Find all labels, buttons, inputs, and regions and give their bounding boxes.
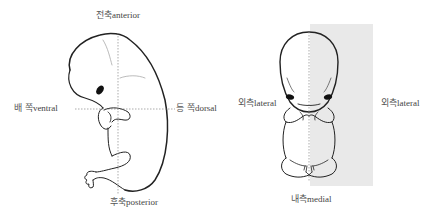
label-dorsal-en: dorsal (195, 103, 217, 113)
label-lateral-right-en: lateral (397, 98, 419, 108)
label-medial-ko: 내측 (291, 194, 307, 204)
embryo-illustrations (0, 0, 435, 220)
label-anterior-en: anterior (112, 10, 140, 20)
label-lateral-left-ko: 외측 (238, 98, 254, 108)
label-posterior-ko: 후축 (110, 197, 126, 207)
label-anterior: 전축anterior (96, 10, 140, 21)
label-ventral: 배 쪽ventral (14, 103, 58, 114)
label-lateral-right-ko: 외측 (381, 98, 397, 108)
label-lateral-left: 외측lateral (238, 98, 276, 109)
label-lateral-left-en: lateral (254, 98, 276, 108)
label-posterior-en: posterior (126, 197, 158, 207)
embryo-axes-diagram: 전축anterior 배 쪽ventral 등 쪽dorsal 후축poster… (0, 0, 435, 220)
label-ventral-en: ventral (33, 103, 58, 113)
label-dorsal-ko: 등 쪽 (176, 103, 195, 113)
label-medial-en: medial (307, 194, 332, 204)
label-anterior-ko: 전축 (96, 10, 112, 20)
label-medial: 내측medial (291, 194, 332, 205)
label-ventral-ko: 배 쪽 (14, 103, 33, 113)
label-lateral-right: 외측lateral (381, 98, 419, 109)
label-posterior: 후축posterior (110, 197, 158, 208)
label-dorsal: 등 쪽dorsal (176, 103, 217, 114)
